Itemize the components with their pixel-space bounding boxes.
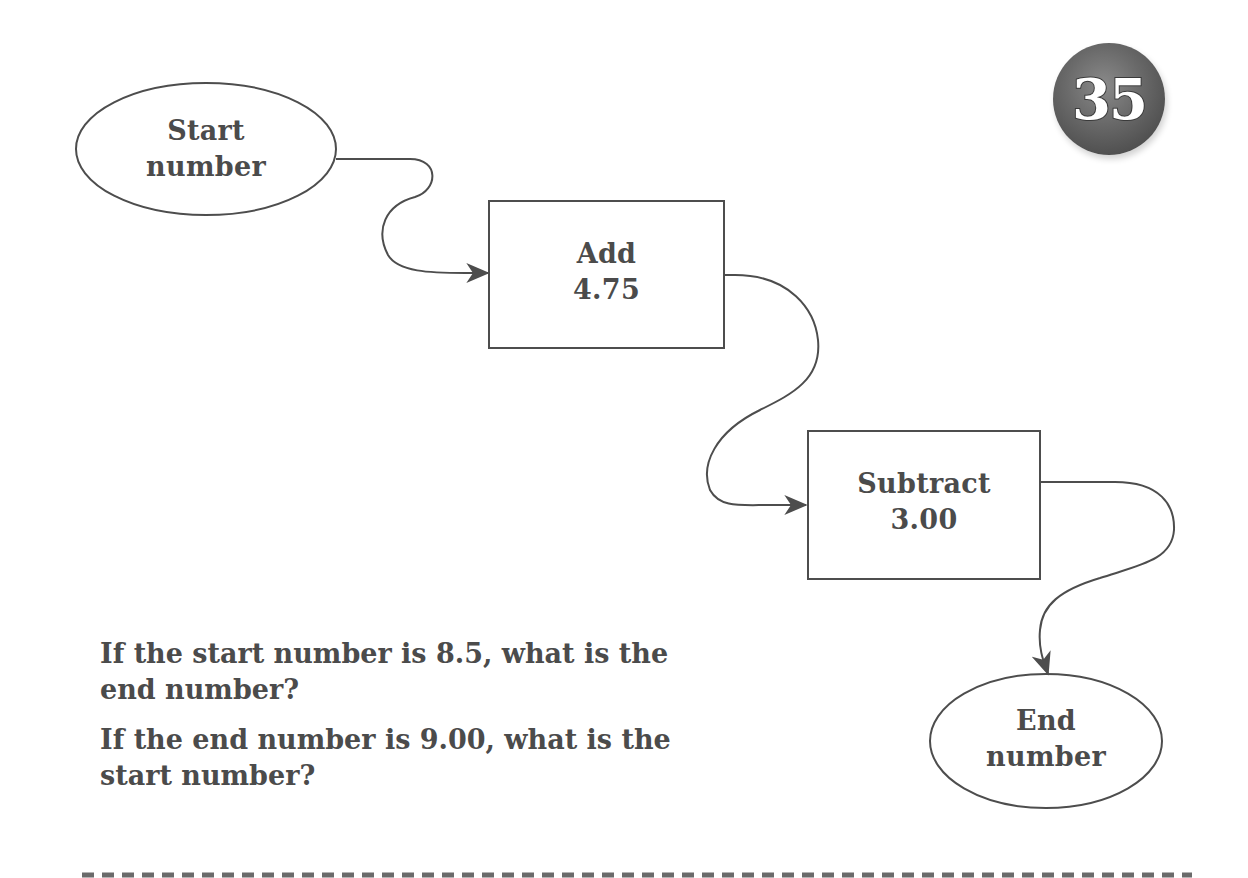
end-node-label-line2: number xyxy=(946,739,1146,775)
problem-number-badge: 35 xyxy=(1053,43,1165,155)
add-node: Add 4.75 xyxy=(489,236,724,308)
start-node-label-line2: number xyxy=(106,149,306,185)
connector-start-to-add xyxy=(336,159,488,273)
worksheet-page: 35 Start number Add 4.75 Subtract 3.00 E… xyxy=(0,0,1248,878)
question-1-line2: end number? xyxy=(100,672,800,708)
subtract-node: Subtract 3.00 xyxy=(808,466,1040,538)
subtract-node-label-operation: Subtract xyxy=(808,466,1040,502)
start-node-label-line1: Start xyxy=(106,113,306,149)
add-node-label-value: 4.75 xyxy=(489,272,724,308)
problem-number: 35 xyxy=(1072,71,1146,127)
subtract-node-label-value: 3.00 xyxy=(808,502,1040,538)
add-node-label-operation: Add xyxy=(489,236,724,272)
question-2-line2: start number? xyxy=(100,758,800,794)
end-node-label-line1: End xyxy=(946,703,1146,739)
start-node: Start number xyxy=(106,113,306,185)
end-node: End number xyxy=(946,703,1146,775)
connector-subtract-to-end xyxy=(1040,482,1174,674)
question-1: If the start number is 8.5, what is the … xyxy=(100,636,800,708)
question-1-line1: If the start number is 8.5, what is the xyxy=(100,636,800,672)
question-2: If the end number is 9.00, what is the s… xyxy=(100,722,800,794)
question-2-line1: If the end number is 9.00, what is the xyxy=(100,722,800,758)
